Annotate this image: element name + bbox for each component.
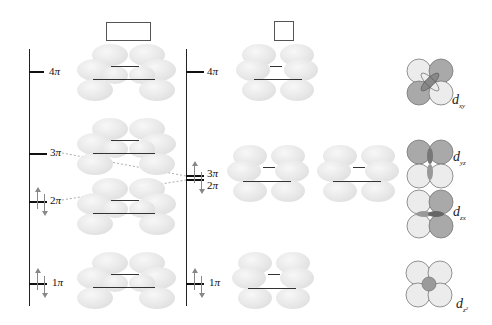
d-orbital-diagrams	[0, 0, 492, 325]
dxy-orbital-icon	[407, 59, 453, 105]
dxy-label: dxy	[452, 92, 465, 110]
dzx-label: dzx	[453, 204, 466, 222]
dzx-orbital-icon	[407, 190, 453, 238]
dz2-label: dz²	[456, 296, 468, 314]
dyz-orbital-icon	[407, 140, 453, 188]
dz2-orbital-icon	[406, 261, 452, 307]
dyz-label: dyz	[453, 149, 466, 167]
